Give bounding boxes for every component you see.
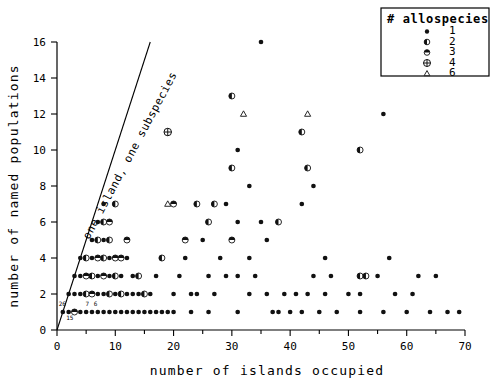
point-1 bbox=[136, 292, 141, 297]
marker-filled-dot bbox=[434, 274, 439, 279]
series-6 bbox=[165, 111, 311, 206]
marker-filled-dot bbox=[317, 310, 322, 315]
point-2 bbox=[101, 255, 107, 261]
point-1 bbox=[259, 40, 264, 45]
point-1 bbox=[264, 238, 269, 243]
marker-filled-dot bbox=[247, 292, 252, 297]
legend: # allospecies12346 bbox=[381, 8, 489, 79]
point-2 bbox=[95, 237, 101, 243]
marker-filled-dot bbox=[90, 238, 95, 243]
marker-filled-dot bbox=[107, 310, 112, 315]
marker-filled-dot bbox=[107, 274, 112, 279]
point-4 bbox=[164, 128, 172, 136]
marker-filled-dot bbox=[235, 148, 240, 153]
marker-filled-dot bbox=[148, 292, 153, 297]
legend-marker-4 bbox=[424, 60, 431, 67]
point-1 bbox=[445, 310, 450, 315]
point-1 bbox=[125, 256, 130, 261]
x-tick-label: 30 bbox=[225, 340, 238, 353]
y-tick-label: 0 bbox=[39, 324, 46, 337]
marker-filled-dot bbox=[130, 292, 135, 297]
marker-filled-dot bbox=[428, 310, 433, 315]
marker-filled-dot bbox=[101, 238, 106, 243]
point-1 bbox=[299, 310, 304, 315]
point-1 bbox=[235, 310, 240, 315]
point-1 bbox=[329, 274, 334, 279]
marker-filled-dot bbox=[72, 274, 77, 279]
marker-filled-dot bbox=[101, 202, 106, 207]
point-1 bbox=[235, 274, 240, 279]
point-1 bbox=[72, 292, 77, 297]
point-1 bbox=[136, 310, 141, 315]
marker-filled-dot bbox=[404, 310, 409, 315]
point-1 bbox=[148, 310, 153, 315]
point-1 bbox=[130, 274, 135, 279]
marker-filled-dot bbox=[171, 292, 176, 297]
marker-filled-dot bbox=[218, 256, 223, 261]
point-1 bbox=[381, 112, 386, 117]
point-3 bbox=[171, 201, 177, 207]
marker-filled-dot bbox=[334, 310, 339, 315]
marker-filled-dot bbox=[259, 220, 264, 225]
marker-filled-dot bbox=[346, 292, 351, 297]
marker-filled-dot bbox=[95, 274, 100, 279]
point-1 bbox=[270, 310, 275, 315]
marker-filled-dot bbox=[154, 274, 159, 279]
marker-filled-dot bbox=[381, 112, 386, 117]
point-1 bbox=[84, 310, 89, 315]
point-2 bbox=[229, 165, 235, 171]
marker-filled-dot bbox=[381, 310, 386, 315]
marker-filled-dot bbox=[142, 310, 147, 315]
point-2 bbox=[83, 291, 89, 297]
marker-filled-dot bbox=[125, 310, 130, 315]
point-1 bbox=[130, 310, 135, 315]
point-1 bbox=[142, 310, 147, 315]
point-1 bbox=[195, 292, 200, 297]
marker-filled-dot bbox=[387, 256, 392, 261]
point-1 bbox=[294, 292, 299, 297]
point-2 bbox=[112, 201, 118, 207]
point-3 bbox=[106, 219, 112, 225]
marker-filled-dot bbox=[72, 292, 77, 297]
marker-filled-dot bbox=[247, 256, 252, 261]
point-1 bbox=[60, 310, 65, 315]
marker-filled-dot bbox=[160, 310, 165, 315]
marker-filled-dot bbox=[212, 292, 217, 297]
point-1 bbox=[107, 256, 112, 261]
marker-filled-dot bbox=[206, 274, 211, 279]
point-1 bbox=[299, 202, 304, 207]
overplot-count-label: 15 bbox=[66, 314, 74, 321]
marker-filled-dot bbox=[101, 292, 106, 297]
point-1 bbox=[218, 256, 223, 261]
marker-filled-dot bbox=[393, 292, 398, 297]
point-1 bbox=[95, 274, 100, 279]
point-1 bbox=[317, 310, 322, 315]
point-1 bbox=[259, 220, 264, 225]
point-1 bbox=[119, 274, 124, 279]
point-2 bbox=[89, 273, 95, 279]
point-3 bbox=[124, 237, 130, 243]
marker-filled-dot bbox=[299, 310, 304, 315]
y-tick-label: 10 bbox=[33, 144, 46, 157]
point-6 bbox=[240, 111, 246, 116]
marker-filled-dot bbox=[288, 310, 293, 315]
marker-filled-dot bbox=[189, 310, 194, 315]
marker-triangle bbox=[240, 111, 246, 116]
marker-filled-dot bbox=[282, 292, 287, 297]
point-1 bbox=[358, 310, 363, 315]
point-1 bbox=[101, 238, 106, 243]
point-3 bbox=[182, 237, 188, 243]
marker-filled-dot bbox=[311, 274, 316, 279]
y-tick-label: 6 bbox=[39, 216, 46, 229]
point-2 bbox=[305, 165, 311, 171]
marker-filled-dot bbox=[60, 310, 65, 315]
marker-filled-dot bbox=[130, 310, 135, 315]
point-1 bbox=[334, 310, 339, 315]
marker-filled-dot bbox=[119, 310, 124, 315]
point-1 bbox=[235, 148, 240, 153]
point-2 bbox=[357, 273, 363, 279]
legend-marker-2 bbox=[424, 39, 430, 45]
x-tick-label: 60 bbox=[400, 340, 413, 353]
point-2 bbox=[136, 273, 142, 279]
point-1 bbox=[212, 292, 217, 297]
